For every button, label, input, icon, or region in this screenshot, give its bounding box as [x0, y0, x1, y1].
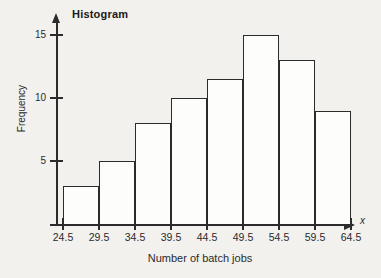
- y-axis-tick-label: 10: [20, 92, 46, 103]
- x-axis-tick-label: 34.5: [115, 231, 155, 243]
- histogram-bar: [135, 123, 171, 224]
- y-axis-tick: [50, 34, 63, 36]
- plot-area: Histogram x Frequency Number of batch jo…: [0, 0, 381, 278]
- x-axis-tick: [278, 218, 280, 230]
- x-axis-tick-label: 24.5: [43, 231, 83, 243]
- histogram-bar: [279, 60, 315, 224]
- x-axis-tick: [170, 218, 172, 230]
- x-axis-tick-label: 44.5: [187, 231, 227, 243]
- x-axis-tick-label: 54.5: [259, 231, 299, 243]
- x-axis-tick: [350, 218, 352, 230]
- y-axis-tick-label-wrap: 5: [20, 161, 46, 162]
- x-axis-tick-label: 39.5: [151, 231, 191, 243]
- histogram-bar: [63, 186, 99, 224]
- y-axis-tick-label-wrap: 10: [20, 98, 46, 99]
- histogram-bar: [315, 111, 351, 224]
- y-axis-tick-label: 5: [20, 155, 46, 166]
- histogram-bar: [171, 98, 207, 224]
- y-axis-tick-label-wrap: 15: [20, 35, 46, 36]
- x-axis-tick-label: 64.5: [331, 231, 371, 243]
- x-axis-tick: [62, 218, 64, 230]
- y-axis-tick: [50, 160, 63, 162]
- x-axis-tick-label: 49.5: [223, 231, 263, 243]
- y-axis-tick: [50, 97, 63, 99]
- x-axis-tick: [314, 218, 316, 230]
- histogram-bar: [207, 79, 243, 224]
- x-axis-tick-label: 29.5: [79, 231, 119, 243]
- y-axis-tick-label: 15: [20, 29, 46, 40]
- x-axis-tick-label: 59.5: [295, 231, 335, 243]
- x-axis-tick: [242, 218, 244, 230]
- x-axis-tick: [206, 218, 208, 230]
- histogram-bar: [99, 161, 135, 224]
- histogram-bar: [243, 35, 279, 224]
- x-axis-tick: [134, 218, 136, 230]
- histogram-figure: Histogram x Frequency Number of batch jo…: [0, 0, 381, 278]
- x-axis-tick: [98, 218, 100, 230]
